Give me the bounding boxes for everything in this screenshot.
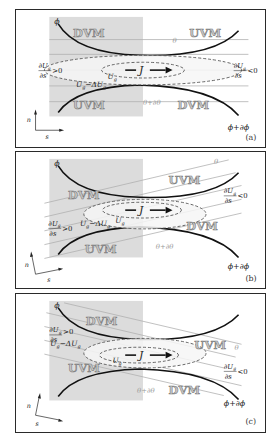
phi-plus-dphi-label: ϕ+∂ϕ	[224, 399, 246, 408]
panel-b-diagram: J DVM UVM UVM DVM θ θ+∂θ ϕ ϕ+∂ϕ Ug Ug−ΔU…	[16, 152, 265, 288]
svg-text:∂s: ∂s	[225, 373, 233, 381]
current-label: J	[137, 204, 144, 217]
svg-text:∂s: ∂s	[39, 72, 47, 80]
svg-text:>0: >0	[63, 328, 73, 336]
phi-label: ϕ	[54, 301, 60, 310]
region-uvm-bottom-left: UVM	[73, 98, 105, 112]
svg-text:∂Ug: ∂Ug	[38, 62, 50, 70]
region-uvm-bottom-left: UVM	[85, 242, 117, 256]
svg-text:∂s: ∂s	[50, 336, 58, 344]
svg-text:∂s: ∂s	[49, 230, 57, 238]
region-dvm-bottom-right: DVM	[186, 219, 218, 233]
axis-s-label: s	[45, 133, 49, 141]
svg-text:>0: >0	[52, 67, 62, 75]
region-uvm-top-right: UVM	[169, 173, 201, 187]
panel-a: J DVM UVM UVM DVM θ θ+∂θ ϕ ϕ+∂ϕ Ug Ug−ΔU…	[15, 9, 266, 148]
svg-text:<0: <0	[238, 368, 248, 376]
panel-a-diagram: J DVM UVM UVM DVM θ θ+∂θ ϕ ϕ+∂ϕ Ug Ug−ΔU…	[16, 10, 265, 147]
current-label: J	[137, 64, 144, 77]
current-label: J	[137, 349, 144, 362]
panel-c: J DVM UVM UVM DVM θ θ+∂θ ϕ ϕ+∂ϕ Ug Ug−ΔU…	[15, 293, 266, 433]
phi-label: ϕ	[54, 159, 60, 168]
svg-text:∂Ug: ∂Ug	[224, 187, 236, 195]
region-uvm-bottom-left: UVM	[68, 361, 100, 375]
phi-plus-dphi-label: ϕ+∂ϕ	[228, 123, 250, 132]
axis-s-label: s	[47, 276, 51, 284]
svg-text:∂Ug: ∂Ug	[224, 363, 236, 371]
axis-n-label: n	[25, 261, 29, 269]
region-uvm-top-right: UVM	[194, 338, 226, 352]
axis-s-label: s	[36, 420, 40, 428]
svg-text:<0: <0	[238, 192, 248, 200]
axis-n-label: n	[27, 402, 31, 410]
deriv-negative-label: ∂Ug ∂s <0	[224, 363, 248, 381]
svg-text:∂s: ∂s	[235, 72, 243, 80]
svg-text:>0: >0	[62, 225, 72, 233]
svg-text:<0: <0	[247, 67, 257, 75]
panel-caption: (a)	[245, 133, 256, 142]
region-dvm-top-left: DVM	[86, 314, 118, 328]
region-dvm-bottom-right: DVM	[169, 383, 201, 397]
panel-b: J DVM UVM UVM DVM θ θ+∂θ ϕ ϕ+∂ϕ Ug Ug−ΔU…	[15, 151, 266, 289]
deriv-negative-label: ∂Ug ∂s <0	[234, 62, 258, 80]
theta-plus-dtheta-label: θ+∂θ	[156, 243, 174, 251]
theta-label: θ	[235, 344, 240, 352]
theta-label: θ	[173, 37, 178, 45]
deriv-negative-label: ∂Ug ∂s <0	[224, 187, 248, 205]
theta-label: θ	[214, 158, 219, 166]
region-uvm-top-right: UVM	[189, 26, 221, 40]
outer-dashed-ellipse	[84, 338, 206, 368]
theta-plus-dtheta-label: θ+∂θ	[137, 387, 155, 395]
region-dvm-bottom-right: DVM	[177, 98, 209, 112]
region-dvm-top-left: DVM	[68, 188, 100, 202]
theta-plus-dtheta-label: θ+∂θ	[143, 99, 161, 107]
axis-n-label: n	[27, 116, 31, 124]
svg-text:∂Ug: ∂Ug	[234, 62, 246, 70]
panel-caption: (c)	[245, 417, 256, 426]
region-dvm-top-left: DVM	[73, 26, 105, 40]
phi-plus-dphi-label: ϕ+∂ϕ	[228, 262, 250, 271]
phi-label: ϕ	[54, 17, 60, 26]
svg-text:∂s: ∂s	[225, 197, 233, 205]
panel-c-diagram: J DVM UVM UVM DVM θ θ+∂θ ϕ ϕ+∂ϕ Ug Ug−ΔU…	[16, 294, 265, 432]
panel-caption: (b)	[245, 274, 256, 283]
